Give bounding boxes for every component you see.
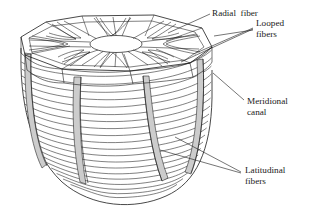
label-radial-fiber: Radial fiber: [212, 8, 258, 18]
label-looped-fibers-line2: fibers: [256, 29, 277, 39]
label-latitudinal-fibers-line1: Latitudinal: [245, 165, 286, 175]
label-looped-fibers-line1: Looped: [256, 18, 284, 28]
label-meridional-canal-line1: Meridional: [247, 96, 288, 106]
label-meridional-canal-line2: canal: [247, 107, 267, 117]
label-latitudinal-fibers-line2: fibers: [245, 176, 266, 186]
diagram-canvas: Radial fiber Looped fibers Meridional ca…: [0, 0, 311, 213]
anatomical-figure: Radial fiber Looped fibers Meridional ca…: [0, 0, 311, 213]
